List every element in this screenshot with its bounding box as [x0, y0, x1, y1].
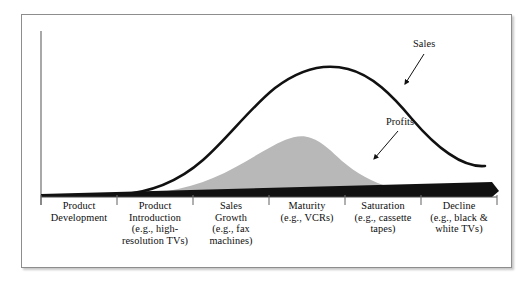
- stage-label-product-development: Product Development: [41, 200, 117, 223]
- stage-label-sales-growth: Sales Growth (e.g., fax machines): [193, 200, 269, 246]
- sales-annotation-label: Sales: [413, 38, 435, 50]
- stage-example-line1: (e.g., cassette: [346, 212, 420, 224]
- stage-name-line1: Decline: [422, 200, 496, 212]
- stage-example-line1: (e.g., VCRs): [270, 212, 344, 224]
- product-life-cycle-figure: Sales Profits Product Development Produc…: [0, 0, 531, 281]
- sales-callout-arrow: [405, 54, 424, 84]
- stage-example-line2: machines): [194, 235, 268, 247]
- stage-label-maturity: Maturity (e.g., VCRs): [269, 200, 345, 223]
- stage-example-line1: (e.g., high-: [118, 223, 192, 235]
- stage-name-line2: Introduction: [118, 212, 192, 224]
- profits-annotation-label: Profits: [386, 116, 414, 128]
- profits-callout-arrow: [374, 131, 398, 159]
- stage-example-line2: white TVs): [422, 223, 496, 235]
- stage-label-saturation: Saturation (e.g., cassette tapes): [345, 200, 421, 235]
- stage-name-line2: Growth: [194, 212, 268, 224]
- stage-name-line1: Maturity: [270, 200, 344, 212]
- stage-example-line1: (e.g., fax: [194, 223, 268, 235]
- stage-name-line2: Development: [42, 212, 116, 224]
- stage-example-line2: tapes): [346, 223, 420, 235]
- stage-label-row: Product Development Product Introduction…: [41, 200, 497, 266]
- stage-name-line1: Product: [118, 200, 192, 212]
- stage-name-line1: Product: [42, 200, 116, 212]
- stage-example-line1: (e.g., black &: [422, 212, 496, 224]
- stage-label-decline: Decline (e.g., black & white TVs): [421, 200, 497, 235]
- stage-name-line1: Sales: [194, 200, 268, 212]
- stage-label-product-introduction: Product Introduction (e.g., high- resolu…: [117, 200, 193, 246]
- stage-example-line2: resolution TVs): [118, 235, 192, 247]
- stage-name-line1: Saturation: [346, 200, 420, 212]
